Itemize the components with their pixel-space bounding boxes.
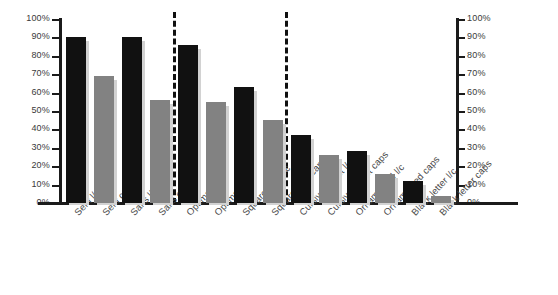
y-axis-right-tick-label: 40% bbox=[467, 124, 517, 133]
y-axis-left-tick-label: 100% bbox=[0, 14, 50, 23]
bar bbox=[122, 37, 142, 203]
bar bbox=[178, 45, 198, 203]
y-axis-right-spine bbox=[456, 18, 459, 204]
y-axis-right-tick-label: 20% bbox=[467, 161, 517, 170]
y-axis-right-tick-label: 50% bbox=[467, 106, 517, 115]
y-axis-left-tick-label: 50% bbox=[0, 106, 50, 115]
bar bbox=[375, 174, 395, 203]
bar bbox=[234, 87, 254, 203]
y-axis-right-tick-label: 100% bbox=[467, 14, 517, 23]
bar bbox=[94, 76, 114, 203]
y-axis-right-tick-label: 90% bbox=[467, 32, 517, 41]
plot-area bbox=[62, 19, 455, 203]
y-axis-left-tick-label: 40% bbox=[0, 124, 50, 133]
bar bbox=[403, 181, 423, 203]
y-axis-right-tick-label: 30% bbox=[467, 143, 517, 152]
y-axis-right-tick-label: 10% bbox=[467, 180, 517, 189]
bar bbox=[347, 151, 367, 203]
y-axis-left-tick-label: 20% bbox=[0, 161, 50, 170]
bar bbox=[206, 102, 226, 203]
y-axis-left-tick-label: 60% bbox=[0, 88, 50, 97]
y-axis-left-tick-label: 90% bbox=[0, 32, 50, 41]
y-axis-left-tick-label: 80% bbox=[0, 51, 50, 60]
y-axis-right-tick-label: 60% bbox=[467, 88, 517, 97]
bar bbox=[263, 120, 283, 203]
y-axis-left-tick-label: 30% bbox=[0, 143, 50, 152]
bar bbox=[150, 100, 170, 203]
bar bbox=[319, 155, 339, 203]
bar bbox=[431, 196, 451, 203]
y-axis-right-tick-label: 80% bbox=[467, 51, 517, 60]
y-axis-right-tick-label: 70% bbox=[467, 69, 517, 78]
bar-chart: 100%90%80%70%60%50%40%30%20%10%0% 100%90… bbox=[0, 0, 558, 295]
y-axis-left-tick-label: 70% bbox=[0, 69, 50, 78]
bar bbox=[66, 37, 86, 203]
y-axis-left-tick-label: 10% bbox=[0, 180, 50, 189]
bar bbox=[291, 135, 311, 203]
